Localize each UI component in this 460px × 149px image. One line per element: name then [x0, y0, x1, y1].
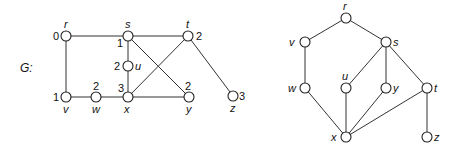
- left-node-label-x: x: [123, 103, 130, 115]
- right-bfs-tree: rvswuytxz: [288, 0, 440, 143]
- left-distance-r: 0: [53, 30, 59, 42]
- left-node-v: [61, 92, 71, 102]
- right-node-label-z: z: [433, 131, 440, 143]
- left-distance-s: 1: [117, 37, 123, 49]
- right-node-label-x: x: [330, 131, 337, 143]
- right-edge-y-x: [346, 88, 386, 137]
- left-node-r: [61, 31, 71, 41]
- right-edge-w-x: [305, 88, 346, 137]
- right-node-s: [381, 37, 391, 47]
- left-distance-u: 2: [114, 60, 120, 72]
- left-node-w: [91, 92, 101, 102]
- right-node-label-r: r: [343, 0, 348, 12]
- left-distance-z: 3: [239, 90, 245, 102]
- left-node-s: [123, 31, 133, 41]
- right-node-label-w: w: [288, 82, 297, 94]
- right-node-x: [341, 132, 351, 142]
- left-edge-t-z: [188, 36, 233, 96]
- left-node-label-y: y: [185, 103, 193, 115]
- left-node-u: [123, 61, 133, 71]
- left-graph: r0s1t2u2v1w2x3y2z3: [53, 18, 245, 115]
- left-node-label-v: v: [63, 103, 70, 115]
- left-distance-t: 2: [196, 30, 202, 42]
- right-node-t: [422, 83, 432, 93]
- right-edge-s-u: [346, 42, 386, 88]
- right-edge-r-v: [305, 18, 346, 42]
- right-node-u: [341, 83, 351, 93]
- right-node-y: [381, 83, 391, 93]
- right-node-r: [341, 13, 351, 23]
- right-node-label-v: v: [289, 36, 296, 48]
- right-edge-t-x: [346, 88, 427, 137]
- left-node-label-t: t: [186, 18, 190, 30]
- left-node-label-u: u: [135, 60, 141, 72]
- left-node-label-z: z: [229, 102, 236, 114]
- graph-diagram: G: r0s1t2u2v1w2x3y2z3 rvswuytxz: [0, 0, 460, 149]
- left-node-y: [184, 92, 194, 102]
- left-node-label-r: r: [64, 18, 69, 30]
- right-edge-r-s: [346, 18, 386, 42]
- right-node-w: [300, 83, 310, 93]
- right-node-label-y: y: [392, 82, 400, 94]
- left-node-label-s: s: [125, 18, 131, 30]
- left-node-z: [228, 91, 238, 101]
- left-distance-x: 3: [118, 82, 124, 94]
- right-node-z: [422, 132, 432, 142]
- graph-label: G:: [20, 61, 33, 75]
- right-node-label-u: u: [342, 70, 348, 82]
- left-node-label-w: w: [92, 103, 101, 115]
- left-node-t: [183, 31, 193, 41]
- left-node-x: [123, 92, 133, 102]
- right-node-label-s: s: [393, 36, 399, 48]
- right-node-v: [300, 37, 310, 47]
- right-node-label-t: t: [434, 82, 438, 94]
- left-distance-y: 2: [185, 80, 191, 92]
- left-distance-v: 1: [53, 91, 59, 103]
- left-distance-w: 2: [93, 80, 99, 92]
